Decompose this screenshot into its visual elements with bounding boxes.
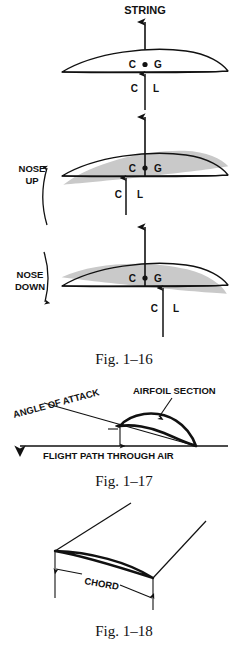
- rotation-arrow-nose-up: [43, 168, 47, 225]
- cg-label-right: G: [154, 163, 162, 174]
- airfoil-chord-line: [62, 286, 228, 287]
- fig-1-18: CHORD: [55, 503, 206, 610]
- wing-trailing-receding-line: [153, 521, 206, 578]
- wing-leading-receding-line: [55, 503, 131, 551]
- chord-label: CHORD: [84, 575, 120, 592]
- cl-label-left: C: [131, 83, 138, 94]
- rotation-arrow-nose-down: [44, 252, 48, 302]
- airfoil-section-label: AIRFOIL SECTION: [133, 385, 216, 396]
- fig-1-16-caption: Fig. 1–16: [95, 351, 153, 367]
- cg-label-left: C: [129, 59, 136, 70]
- nose-down-label-line1: NOSE: [17, 269, 44, 280]
- chord-dimension-right-arrow: [120, 585, 152, 598]
- cg-label-right: G: [154, 59, 162, 70]
- center-of-gravity-dot: [142, 62, 147, 67]
- figures-canvas: STRING C G C L: [0, 0, 248, 652]
- nose-down-label-line2: DOWN: [15, 281, 45, 292]
- cl-label-right: L: [137, 189, 143, 200]
- cl-label-right: L: [173, 303, 179, 314]
- fig-1-16-panel-nose-down: C G C L NOSE DOWN: [15, 227, 229, 337]
- cl-label-right: L: [153, 83, 159, 94]
- string-label: STRING: [124, 4, 166, 16]
- nose-up-label-line2: UP: [25, 175, 39, 186]
- cl-label-left: C: [151, 303, 158, 314]
- cg-label-right: G: [154, 273, 162, 284]
- airfoil-section-leader: [159, 398, 172, 417]
- cg-label-left: C: [129, 273, 136, 284]
- chord-dimension-left-arrow: [56, 569, 82, 574]
- figure-page: STRING C G C L: [0, 0, 248, 652]
- fig-1-17-caption: Fig. 1–17: [95, 473, 153, 489]
- fig-1-18-caption: Fig. 1–18: [95, 623, 153, 639]
- center-of-gravity-dot: [142, 275, 147, 280]
- airfoil-chord-line: [62, 176, 228, 177]
- wing-far-edge: [131, 503, 206, 521]
- center-of-gravity-dot: [142, 165, 147, 170]
- cl-label-left: C: [115, 189, 122, 200]
- fig-1-17: ANGLE OF ATTACK AIRFOIL SECTION FLIGHT P…: [12, 385, 228, 461]
- flight-path-label: FLIGHT PATH THROUGH AIR: [43, 450, 174, 461]
- wing-root-airfoil: [55, 551, 153, 578]
- nose-up-label-line1: NOSE: [19, 163, 46, 174]
- cg-label-left: C: [129, 163, 136, 174]
- airfoil-section-shape: [120, 414, 196, 446]
- airfoil-chord-line: [62, 72, 228, 73]
- fig-1-16-panel-nose-up: C G C L NOSE UP: [19, 117, 229, 225]
- airfoil-outline: [62, 49, 228, 72]
- fig-1-16-panel-balanced: STRING C G C L: [62, 4, 228, 110]
